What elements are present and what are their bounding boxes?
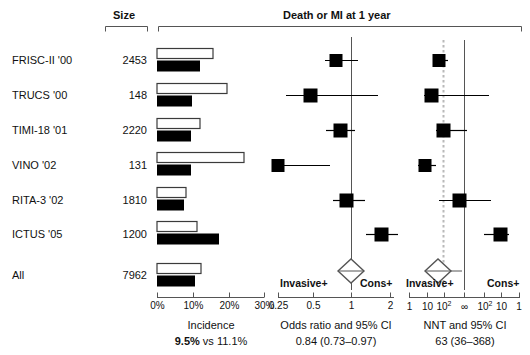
bar-filled-timi [157,131,191,142]
or-direction-right: Cons+ [360,277,392,289]
or-direction-left: Invasive+ [280,277,328,289]
incidence-summary-invasive: 9.5% [175,335,200,347]
nnt-summary: 63 (36–368) [405,335,525,347]
bar-open-rita [157,188,186,198]
bar-open-timi [157,119,200,129]
nnt-axis [409,293,520,298]
size-value-timi: 2220 [97,124,147,136]
outcome-column-header: Death or MI at 1 year [283,9,391,21]
incidence-summary-conservative: 11.1% [217,335,247,347]
incidence-summary-vs: vs [200,335,217,347]
marker-square-nnt-timi [437,124,450,137]
size-column-header: Size [113,9,135,21]
or-tick-0: 0.25 [263,300,294,311]
or-axis-title: Odds ratio and 95% CI [277,319,395,331]
bar-filled-frisc [157,61,200,72]
study-label-timi: TIMI-18 '01 [12,124,67,136]
study-label-trucs: TRUCS '00 [12,89,67,101]
outcome-column-bracket [159,27,522,32]
marker-square-nnt-ictus [494,228,507,241]
marker-square-rita [340,194,353,207]
odds-ratio-axis [278,293,394,298]
incidence-axis-title: Incidence [161,319,261,331]
or-tick-2: 1 [338,300,365,311]
marker-square-nnt-trucs [425,89,438,102]
nnt-tick-6: 1 [508,300,530,312]
incidence-summary: 9.5% vs 11.1% [161,335,261,347]
size-value-frisc: 2453 [97,54,147,66]
or-tick-1: 0.5 [299,300,328,311]
incidence-axis [157,293,265,298]
bar-filled-rita [157,200,184,211]
size-value-vino: 131 [97,159,147,171]
bar-filled-vino [157,165,191,176]
incidence-tick-0: 0% [140,300,175,311]
nnt-markers [418,55,509,242]
incidence-bars [157,49,244,287]
odds-ratio-markers [272,55,398,242]
nnt-axis-title: NNT and 95% CI [405,319,525,331]
marker-square-frisc [330,55,342,67]
size-value-rita: 1810 [97,194,147,206]
bar-filled-all [157,276,195,287]
size-value-trucs: 148 [97,89,147,101]
nnt-direction-left: Invasive+ [406,277,454,289]
incidence-tick-2: 20% [212,300,247,311]
marker-square-ictus [375,228,388,241]
bar-open-all [157,264,201,274]
size-column-bracket [106,27,148,32]
study-label-frisc: FRISC-II '00 [12,54,72,66]
bar-filled-ictus [157,234,219,245]
marker-square-timi [334,124,347,137]
bar-open-trucs [157,84,227,94]
size-value-all: 7962 [97,269,147,281]
marker-square-trucs [304,89,317,102]
bar-open-frisc [157,49,213,59]
marker-square-nnt-frisc [433,55,445,67]
incidence-tick-1: 10% [176,300,211,311]
study-label-all: All [12,269,24,281]
bar-open-vino [157,153,244,163]
marker-square-nnt-rita [453,194,466,207]
marker-square-nnt-vino [419,160,431,172]
nnt-direction-right: Cons+ [487,277,519,289]
bar-open-ictus [157,222,197,232]
study-label-vino: VINO '02 [12,159,56,171]
bar-filled-trucs [157,96,192,107]
size-value-ictus: 1200 [97,228,147,240]
marker-square-vino [272,160,284,172]
study-label-rita: RITA-3 '02 [12,194,63,206]
or-summary: 0.84 (0.73–0.97) [277,335,395,347]
study-label-ictus: ICTUS '05 [12,228,62,240]
